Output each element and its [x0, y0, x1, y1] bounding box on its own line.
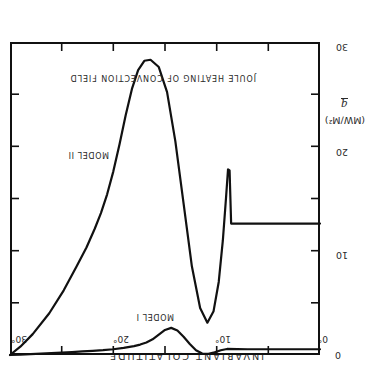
curve-label-model-2: MODEL II — [68, 150, 109, 159]
plot-inner-title: JOULE HEATING OF CONVECTION FIELD — [70, 73, 256, 82]
y-axis-ticks-right — [10, 94, 19, 303]
y-axis-ticks-left — [311, 94, 320, 303]
y-axis-units: (MW/M²) — [322, 115, 368, 126]
figure-screenshot: INVARIANT COLATITUDE 0° 10° 20° 30° 0 10… — [0, 0, 372, 366]
plot-canvas — [10, 42, 320, 355]
plot-area: MODEL I MODEL II JOULE HEATING OF CONVEC… — [10, 42, 320, 355]
rotated-figure-container: INVARIANT COLATITUDE 0° 10° 20° 30° 0 10… — [0, 0, 372, 366]
curve-label-model-1: MODEL I — [136, 312, 174, 321]
y-tick-label-10: 10 — [336, 250, 348, 261]
y-tick-label-20: 20 — [336, 147, 348, 158]
curve-model-2 — [10, 60, 320, 355]
y-tick-label-30: 30 — [336, 42, 348, 53]
y-tick-label-0: 0 — [335, 350, 341, 361]
x-axis-ticks-bottom — [62, 42, 269, 51]
y-axis-symbol: q — [341, 98, 348, 110]
